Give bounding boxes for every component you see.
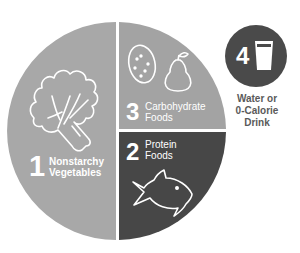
section-vegetables (7, 22, 116, 240)
caption-line: Water or (222, 93, 292, 105)
section-label-protein: Protein Foods (145, 139, 177, 161)
label-line: Vegetables (49, 167, 104, 178)
caption-line: 0-Calorie (222, 105, 292, 117)
section-number-1: 1 (29, 152, 45, 181)
drink-number-4: 4 (236, 44, 249, 68)
caption-line: Drink (222, 117, 292, 129)
label-line: Foods (145, 150, 177, 161)
section-number-3: 3 (126, 100, 139, 124)
label-line: Protein (145, 139, 177, 150)
label-line: Foods (145, 112, 206, 123)
section-label-vegetables: Nonstarchy Vegetables (49, 156, 104, 178)
section-label-carbohydrates: Carbohydrate Foods (145, 101, 206, 123)
glass-icon (255, 41, 273, 70)
label-line: Nonstarchy (49, 156, 104, 167)
drink-circle (225, 25, 287, 87)
label-line: Carbohydrate (145, 101, 206, 112)
drink-caption: Water or 0-Calorie Drink (222, 93, 292, 129)
section-number-2: 2 (126, 140, 139, 164)
